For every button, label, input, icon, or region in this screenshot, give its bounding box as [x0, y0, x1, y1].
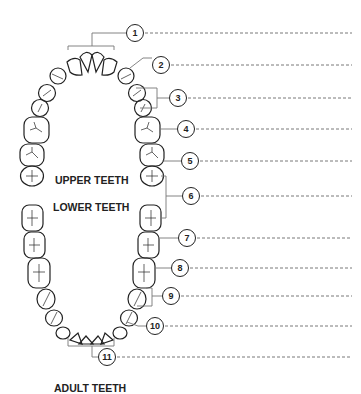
upper-arch — [20, 52, 164, 186]
lower-arch — [22, 205, 161, 344]
callout-5: 5 — [181, 152, 199, 170]
callout-6: 6 — [182, 187, 200, 205]
upper-teeth-label: UPPER TEETH — [55, 174, 129, 186]
callout-3: 3 — [169, 89, 187, 107]
callout-10: 10 — [146, 317, 164, 335]
callout-9: 9 — [162, 287, 180, 305]
callout-7: 7 — [178, 229, 196, 247]
callout-8: 8 — [171, 259, 189, 277]
lower-teeth-label: LOWER TEETH — [53, 201, 129, 213]
adult-teeth-title: ADULT TEETH — [54, 382, 126, 394]
callout-2: 2 — [152, 56, 170, 74]
callout-1: 1 — [126, 24, 144, 42]
callout-4: 4 — [177, 120, 195, 138]
callout-11: 11 — [98, 348, 116, 366]
teeth-diagram — [0, 0, 361, 394]
